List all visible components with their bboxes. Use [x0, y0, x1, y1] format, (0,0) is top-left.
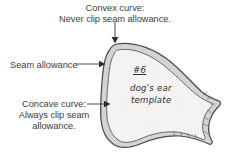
template-number-text: #6 [133, 65, 146, 75]
seam-allowance-leader-line [76, 61, 106, 67]
label-seam-allowance: Seam allowance [10, 60, 78, 71]
template-name-annotation: dog's ear [130, 83, 172, 93]
diagram-canvas: Convex curve: Never clip seam allowance.… [0, 0, 230, 153]
template-kind-annotation: template [131, 95, 171, 105]
label-convex-curve: Convex curve: Never clip seam allowance. [0, 3, 230, 25]
label-concave-curve: Concave curve: Always clip seam allowanc… [2, 99, 106, 133]
template-number-annotation: #6 [133, 65, 146, 75]
